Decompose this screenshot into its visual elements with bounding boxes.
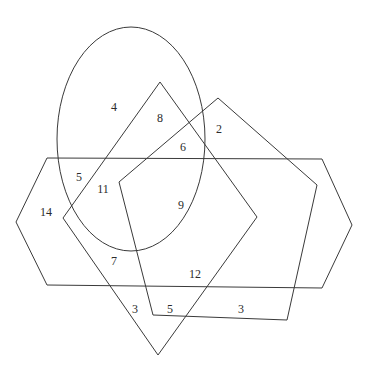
region-label-3-right: 3 bbox=[238, 303, 244, 315]
region-label-8: 8 bbox=[157, 112, 163, 124]
ellipse-shape bbox=[57, 27, 205, 251]
geometry-figure-canvas: 4 8 2 6 5 11 14 9 7 12 3 5 3 bbox=[0, 0, 370, 377]
region-label-14: 14 bbox=[40, 206, 52, 218]
region-label-6: 6 bbox=[180, 141, 186, 153]
geometry-figure-svg bbox=[0, 0, 370, 377]
region-label-4: 4 bbox=[111, 101, 117, 113]
region-label-3-left: 3 bbox=[132, 303, 138, 315]
region-label-12: 12 bbox=[189, 268, 201, 280]
region-label-2: 2 bbox=[216, 123, 222, 135]
region-label-5-lower: 5 bbox=[167, 303, 173, 315]
region-label-5-upper: 5 bbox=[76, 171, 82, 183]
region-label-9: 9 bbox=[178, 199, 184, 211]
region-label-7: 7 bbox=[111, 255, 117, 267]
region-label-11: 11 bbox=[97, 183, 109, 195]
